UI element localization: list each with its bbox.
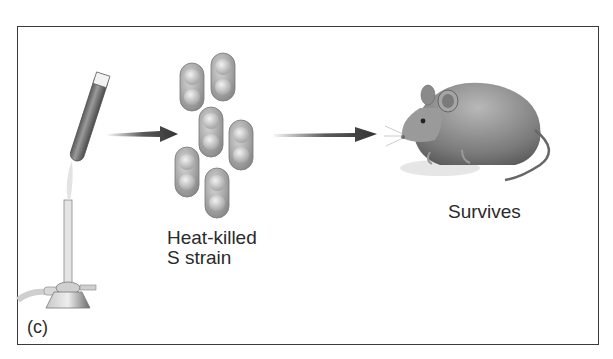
arrow-right-icon (274, 127, 377, 142)
bacteria-caption-line1: Heat-killed (167, 228, 257, 248)
arrow-right-icon (108, 126, 178, 142)
mouse-caption: Survives (448, 202, 521, 222)
panel-label: (c) (27, 318, 48, 337)
bacteria-caption: Heat-killed S strain (167, 228, 257, 268)
bacteria-caption-line2: S strain (167, 248, 257, 268)
bunsen-burner-icon (18, 160, 96, 308)
mouse-icon (384, 83, 549, 180)
test-tube-icon (69, 72, 110, 163)
diagram-artwork (0, 0, 613, 359)
bacteria-cluster-icon (175, 53, 253, 218)
